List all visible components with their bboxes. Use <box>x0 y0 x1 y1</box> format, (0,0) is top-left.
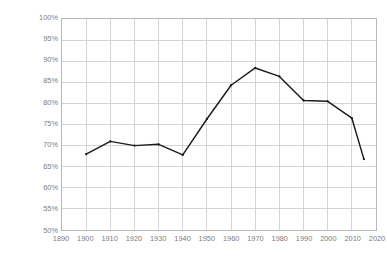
x-axis-tick-label: 2020 <box>357 235 387 243</box>
data-point <box>109 140 111 142</box>
data-point <box>363 157 365 159</box>
chart-container: 독자적으로 생활하고 있는 청년層 (25-29세) 100%95%90%85%… <box>0 0 387 264</box>
data-point <box>351 117 353 119</box>
plot-area <box>61 18 377 231</box>
data-point <box>157 143 159 145</box>
data-point <box>133 144 135 146</box>
data-markers-series-0 <box>85 66 365 159</box>
data-point <box>85 152 87 154</box>
data-point <box>254 66 256 68</box>
data-point <box>302 99 304 101</box>
data-point <box>327 100 329 102</box>
data-point <box>182 153 184 155</box>
data-point <box>278 75 280 77</box>
chart-svg <box>62 19 376 230</box>
data-point <box>206 117 208 119</box>
horizontal-gridlines <box>62 40 376 209</box>
data-point <box>230 84 232 86</box>
